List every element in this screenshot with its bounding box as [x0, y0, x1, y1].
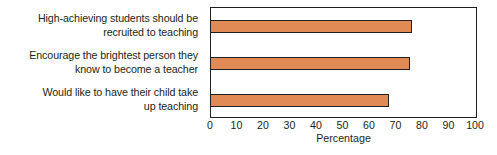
x-tick-label: 60 [363, 119, 375, 132]
x-axis-title: Percentage [210, 132, 477, 144]
bar-row [211, 8, 476, 45]
category-axis-labels: High-achieving students should be recrui… [0, 7, 204, 118]
bar-chart-figure: High-achieving students should be recrui… [0, 0, 497, 155]
x-tick-label: 10 [231, 119, 243, 132]
category-label: Would like to have their child take up t… [0, 81, 204, 118]
x-tick-label: 40 [310, 119, 322, 132]
x-tick-label: 30 [284, 119, 296, 132]
bar [210, 57, 410, 70]
x-tick-label: 90 [443, 119, 455, 132]
plot-area [210, 7, 477, 118]
category-label: High-achieving students should be recrui… [0, 7, 204, 44]
bar [210, 20, 412, 33]
x-tick-label: 50 [337, 119, 349, 132]
bars-layer [211, 8, 476, 117]
category-label: Encourage the brightest person they know… [0, 44, 204, 81]
bar-row [211, 45, 476, 82]
bar-row [211, 82, 476, 119]
x-tick-label: 80 [416, 119, 428, 132]
bar [210, 94, 389, 107]
x-tick-label: 70 [390, 119, 402, 132]
x-tick-label: 0 [207, 119, 213, 132]
x-tick-label: 100 [466, 119, 484, 132]
x-tick-label: 20 [257, 119, 269, 132]
